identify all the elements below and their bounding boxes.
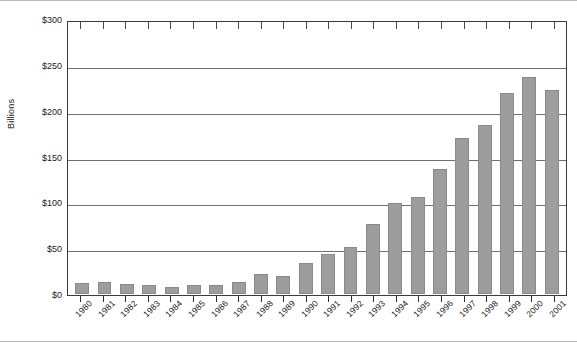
x-label-slot: 1990 <box>294 303 317 342</box>
bar <box>500 93 514 294</box>
x-tick-mark <box>103 296 104 302</box>
x-label-slot: 1982 <box>114 303 137 342</box>
x-label-slot: 1993 <box>362 303 385 342</box>
bar <box>545 90 559 294</box>
x-tick-mark <box>238 296 239 302</box>
bar-slot <box>295 23 317 294</box>
x-tick-mark <box>441 296 442 302</box>
plot-area <box>67 21 567 296</box>
bar <box>165 287 179 294</box>
bar-slot <box>93 23 115 294</box>
x-label-slot: 1986 <box>204 303 227 342</box>
bar <box>366 224 380 294</box>
bar <box>299 263 313 294</box>
x-tick-mark <box>509 296 510 302</box>
x-label-slot: 1981 <box>92 303 115 342</box>
bar-slot <box>429 23 451 294</box>
x-label-slot: 1989 <box>272 303 295 342</box>
x-tick-mark <box>80 296 81 302</box>
x-tick-mark <box>125 296 126 302</box>
bar-slot <box>406 23 428 294</box>
y-axis-tick-label: $100 <box>22 198 62 208</box>
x-tick-mark <box>531 296 532 302</box>
x-label-slot: 1996 <box>430 303 453 342</box>
x-tick-mark <box>464 296 465 302</box>
bar <box>254 274 268 294</box>
x-tick-mark <box>486 296 487 302</box>
x-label-slot: 1980 <box>69 303 92 342</box>
bar-slot <box>518 23 540 294</box>
y-axis-tick-label: $50 <box>22 244 62 254</box>
bar-slot <box>317 23 339 294</box>
bar-slot <box>116 23 138 294</box>
bar-slot <box>71 23 93 294</box>
bar-slot <box>183 23 205 294</box>
bar <box>433 169 447 294</box>
bar-slot <box>160 23 182 294</box>
x-tick-mark <box>170 296 171 302</box>
x-label-slot: 1998 <box>475 303 498 342</box>
x-tick-mark <box>306 296 307 302</box>
bar-slot <box>205 23 227 294</box>
bar-slot <box>339 23 361 294</box>
y-axis-tick-label: $250 <box>22 61 62 71</box>
bar <box>98 282 112 294</box>
x-label-slot: 1994 <box>385 303 408 342</box>
bar <box>321 254 335 294</box>
bar-slot <box>384 23 406 294</box>
bar <box>187 285 201 294</box>
bar <box>344 247 358 294</box>
bar-slot <box>228 23 250 294</box>
y-axis-title: Billions <box>6 9 16 129</box>
x-tick-mark <box>261 296 262 302</box>
x-label-slot: 1988 <box>249 303 272 342</box>
bar-slot <box>541 23 563 294</box>
bar <box>478 125 492 294</box>
x-label-slot: 1987 <box>227 303 250 342</box>
bar <box>276 276 290 294</box>
bar-slot <box>451 23 473 294</box>
x-tick-mark <box>328 296 329 302</box>
bar-slot <box>473 23 495 294</box>
bar <box>120 284 134 294</box>
x-tick-mark <box>193 296 194 302</box>
bar <box>388 203 402 294</box>
bar-slot <box>250 23 272 294</box>
bar <box>522 77 536 294</box>
x-tick-mark <box>418 296 419 302</box>
bar-slot <box>272 23 294 294</box>
x-tick-mark <box>351 296 352 302</box>
x-tick-mark <box>148 296 149 302</box>
x-label-slot: 1995 <box>407 303 430 342</box>
bar <box>411 197 425 294</box>
y-axis-tick-label: $150 <box>22 153 62 163</box>
bar <box>75 283 89 294</box>
bar <box>455 138 469 294</box>
x-label-slot: 1984 <box>159 303 182 342</box>
x-tick-mark <box>283 296 284 302</box>
x-label-slot: 2001 <box>542 303 565 342</box>
bar-slot <box>362 23 384 294</box>
y-axis-tick-label: $200 <box>22 107 62 117</box>
x-axis-tick-labels: 1980198119821983198419851986198719881989… <box>67 303 567 342</box>
x-label-slot: 1997 <box>452 303 475 342</box>
x-label-slot: 1983 <box>137 303 160 342</box>
x-label-slot: 1985 <box>182 303 205 342</box>
x-label-slot: 1992 <box>340 303 363 342</box>
bar-slot <box>138 23 160 294</box>
bar <box>209 285 223 294</box>
x-tick-mark <box>396 296 397 302</box>
x-label-slot: 1999 <box>497 303 520 342</box>
bar-series <box>69 23 565 294</box>
chart-figure: Billions $0$50$100$150$200$250$300 19801… <box>0 0 577 342</box>
y-axis-tick-label: $300 <box>22 15 62 25</box>
bar <box>232 282 246 294</box>
x-label-slot: 1991 <box>317 303 340 342</box>
x-label-slot: 2000 <box>520 303 543 342</box>
bar-slot <box>496 23 518 294</box>
x-tick-mark <box>216 296 217 302</box>
x-tick-mark <box>373 296 374 302</box>
x-tick-mark <box>554 296 555 302</box>
bar <box>142 285 156 294</box>
y-axis-tick-label: $0 <box>22 290 62 300</box>
